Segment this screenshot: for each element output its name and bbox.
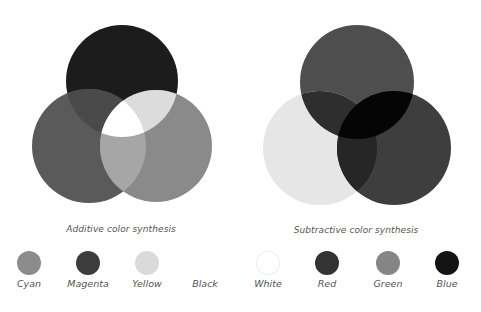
label-magenta: Magenta [67,278,108,289]
swatch-yellow [135,251,159,275]
swatch-green [376,251,400,275]
swatch-cyan [17,251,41,275]
label-red: Red [318,278,336,289]
label-blue: Blue [436,278,457,289]
swatch-magenta [76,251,100,275]
label-black: Black [192,278,218,289]
additive-venn [32,25,212,203]
subtractive-caption: Subtractive color synthesis [294,225,419,235]
swatch-blue [435,251,459,275]
subtractive-venn [263,25,451,205]
label-yellow: Yellow [132,278,161,289]
label-green: Green [374,278,403,289]
label-white: White [254,278,282,289]
swatch-red [315,251,339,275]
label-cyan: Cyan [17,278,41,289]
swatch-white [256,251,280,275]
additive-caption: Additive color synthesis [66,224,176,234]
color-synthesis-diagram [0,0,481,312]
